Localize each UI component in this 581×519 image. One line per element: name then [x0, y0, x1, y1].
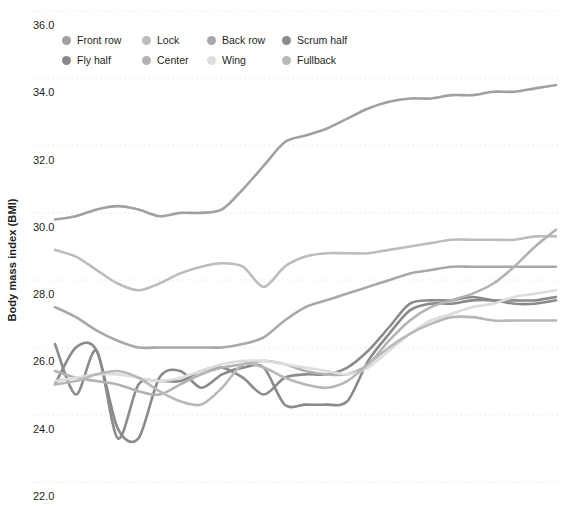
- series-line-center: [55, 230, 556, 395]
- legend-item-wing[interactable]: Wing: [207, 50, 282, 70]
- series-line-wing: [55, 290, 556, 381]
- legend-swatch-icon: [62, 56, 71, 65]
- legend-item-scrum-half[interactable]: Scrum half: [282, 30, 372, 50]
- legend-item-fly-half[interactable]: Fly half: [62, 50, 142, 70]
- legend-item-front-row[interactable]: Front row: [62, 30, 142, 50]
- plot-area: [0, 0, 581, 519]
- legend: Front rowLockBack rowScrum halfFly halfC…: [62, 30, 382, 70]
- legend-item-label: Lock: [157, 34, 179, 46]
- legend-row: Fly halfCenterWingFullback: [62, 50, 382, 70]
- legend-swatch-icon: [207, 36, 216, 45]
- bmi-line-chart: Body mass index (BMI) 36.034.032.030.028…: [0, 0, 581, 519]
- legend-item-back-row[interactable]: Back row: [207, 30, 282, 50]
- legend-item-fullback[interactable]: Fullback: [282, 50, 372, 70]
- legend-item-center[interactable]: Center: [142, 50, 207, 70]
- legend-item-label: Back row: [222, 34, 265, 46]
- series-line-back-row: [55, 266, 556, 347]
- legend-swatch-icon: [142, 36, 151, 45]
- series-line-lock: [55, 236, 556, 290]
- legend-swatch-icon: [142, 56, 151, 65]
- legend-item-label: Center: [157, 54, 189, 66]
- legend-swatch-icon: [207, 56, 216, 65]
- legend-item-label: Wing: [222, 54, 246, 66]
- series-line-fullback: [55, 317, 556, 406]
- legend-item-label: Scrum half: [297, 34, 347, 46]
- legend-swatch-icon: [282, 36, 291, 45]
- series-lines: [55, 85, 556, 442]
- legend-row: Front rowLockBack rowScrum half: [62, 30, 382, 50]
- series-line-front-row: [55, 85, 556, 220]
- legend-item-label: Front row: [77, 34, 121, 46]
- legend-swatch-icon: [62, 36, 71, 45]
- legend-item-label: Fly half: [77, 54, 111, 66]
- legend-item-label: Fullback: [297, 54, 336, 66]
- legend-item-lock[interactable]: Lock: [142, 30, 207, 50]
- legend-swatch-icon: [282, 56, 291, 65]
